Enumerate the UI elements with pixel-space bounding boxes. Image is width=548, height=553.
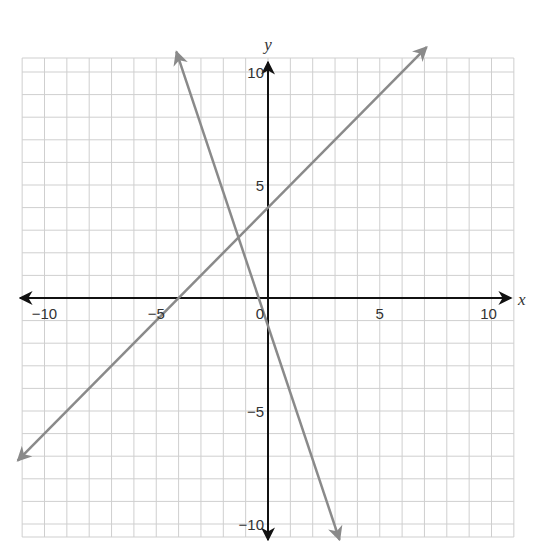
y-tick-label: −10: [239, 516, 264, 533]
y-tick-label: −5: [247, 403, 264, 420]
tick-labels: −10−55100105−5−10xy: [32, 35, 526, 533]
x-axis-label: x: [517, 290, 526, 309]
coordinate-plane: −10−55100105−5−10xy: [0, 0, 548, 553]
x-tick-label: 10: [480, 305, 497, 322]
x-tick-label: 5: [376, 305, 384, 322]
y-axis-label: y: [262, 35, 272, 54]
y-tick-label: 10: [247, 64, 264, 81]
origin-label: 0: [256, 305, 264, 322]
x-tick-label: −10: [32, 305, 57, 322]
axes: [20, 62, 511, 540]
line-1: [18, 47, 427, 461]
y-tick-label: 5: [256, 177, 264, 194]
plotted-lines: [18, 47, 427, 540]
x-tick-label: −5: [148, 305, 165, 322]
